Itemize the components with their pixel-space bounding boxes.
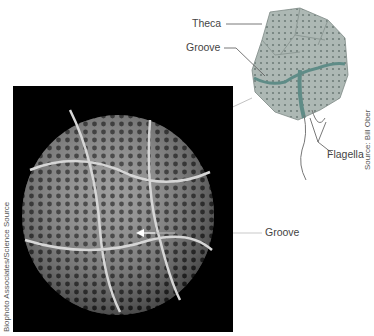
theca-label: Theca bbox=[192, 17, 221, 29]
photo-groove-label: Groove bbox=[265, 226, 299, 238]
illustration-credit: Source: Bill Ober bbox=[363, 110, 372, 170]
flagella-label: Flagella bbox=[327, 148, 364, 160]
groove-label: Groove bbox=[186, 41, 220, 53]
photo-credit: Biophoto Associates/Science Source bbox=[2, 202, 11, 332]
